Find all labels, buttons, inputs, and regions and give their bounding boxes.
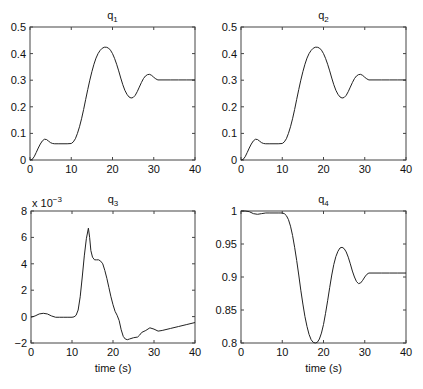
subplot-title: q4 [318,193,329,208]
series-line-q3 [31,228,195,340]
y-tick-label: 0 [21,311,27,323]
y-tick-label: 0.4 [11,48,26,60]
subplot-title: q3 [108,193,119,208]
y-tick-label: 0.2 [222,101,237,113]
y-exponent-label: x 10−3 [32,195,62,209]
y-tick-label: 0.1 [11,127,26,139]
x-tick-label: 10 [66,346,78,358]
x-axis-label: time (s) [95,362,132,374]
y-tick-label: 0.2 [11,101,26,113]
y-tick-label: 4 [21,258,27,270]
subplot-title: q2 [318,9,329,24]
subplot-q4: 0102030400.80.850.90.951q4time (s) [216,193,413,374]
x-axis-label: time (s) [305,362,342,374]
x-tick-label: 20 [106,163,118,175]
y-tick-label: 0.3 [222,74,237,86]
figure: 01020304000.10.20.30.40.5q101020304000.1… [0,0,423,389]
series-line-q2 [241,47,406,160]
x-tick-label: 20 [317,163,329,175]
subplot-title: q1 [107,9,118,24]
y-tick-label: 0.95 [216,238,237,250]
y-tick-label: 0.3 [11,74,26,86]
subplot-q2: 01020304000.10.20.30.40.5q2 [222,9,412,175]
x-tick-label: 40 [189,346,201,358]
y-tick-label: 0.8 [222,337,237,349]
x-tick-label: 30 [148,346,160,358]
x-tick-label: 0 [238,346,244,358]
x-tick-label: 0 [28,346,34,358]
y-tick-label: 0 [20,154,26,166]
y-tick-label: 0.5 [11,21,26,33]
x-tick-label: 40 [400,163,412,175]
axes-frame [241,27,406,160]
y-tick-label: 0 [231,154,237,166]
y-tick-label: 8 [21,205,27,217]
x-tick-label: 0 [27,163,33,175]
y-tick-label: 6 [21,231,27,243]
axes-frame [31,211,195,343]
x-tick-label: 30 [359,163,371,175]
y-tick-label: 0.4 [222,48,237,60]
x-tick-label: 10 [276,163,288,175]
y-tick-label: 0.85 [216,304,237,316]
x-tick-label: 40 [189,163,201,175]
x-tick-label: 40 [400,346,412,358]
subplot-q3: 010203040−202468q3x 10−3time (s) [14,193,201,374]
series-line-q4 [241,211,406,343]
x-tick-label: 20 [317,346,329,358]
x-tick-label: 10 [276,346,288,358]
y-tick-label: 0.1 [222,127,237,139]
x-tick-label: 20 [107,346,119,358]
series-line-q1 [30,47,195,160]
x-tick-label: 0 [238,163,244,175]
y-tick-label: 1 [231,205,237,217]
axes-frame [30,27,195,160]
y-tick-label: 0.5 [222,21,237,33]
x-tick-label: 30 [359,346,371,358]
y-tick-label: −2 [14,337,27,349]
x-tick-label: 10 [65,163,77,175]
y-tick-label: 2 [21,284,27,296]
subplot-q1: 01020304000.10.20.30.40.5q1 [11,9,201,175]
y-tick-label: 0.9 [222,271,237,283]
x-tick-label: 30 [148,163,160,175]
